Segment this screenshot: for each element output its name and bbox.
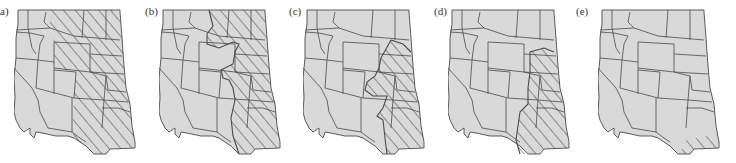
panel-label-d: (d) [434,5,447,17]
panel-c: (c) [289,0,435,163]
map-panel-b [159,8,287,156]
panel-label-e: (e) [576,5,588,17]
panel-e: (e) [576,0,722,163]
panel-label-a: a) [0,5,9,17]
panel-d: (d) [434,0,580,163]
panel-label-b: (b) [145,5,158,17]
panel-label-c: (c) [289,5,301,17]
map-panel-c [303,8,431,156]
panel-a: a) [0,0,146,163]
map-panel-d [448,8,576,156]
panel-b: (b) [145,0,291,163]
map-panel-a [14,8,142,156]
map-panel-e [598,8,726,156]
